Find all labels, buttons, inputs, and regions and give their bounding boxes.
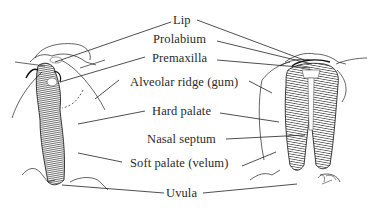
label-prolabium: Prolabium [153,32,206,46]
label-uvula: Uvula [166,186,197,200]
artist-signature [318,175,336,184]
label-alveolar-ridge: Alveolar ridge (gum) [130,75,238,89]
label-hard-palate: Hard palate [152,104,211,118]
label-soft-palate: Soft palate (velum) [130,156,228,170]
label-lip: Lip [173,13,191,27]
label-premaxilla: Premaxilla [152,51,207,65]
cleft-palate-diagram: Lip Prolabium Premaxilla Alveolar ridge … [0,0,379,211]
label-nasal-septum: Nasal septum [147,132,216,146]
